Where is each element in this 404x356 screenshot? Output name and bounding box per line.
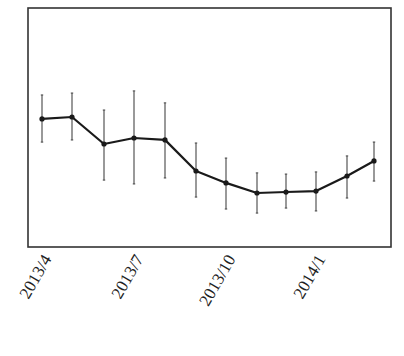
data-point — [162, 137, 167, 142]
data-point — [39, 116, 44, 121]
series-line — [42, 117, 374, 193]
data-point — [101, 141, 106, 146]
line-chart: 2013/42013/72013/102014/1 — [0, 0, 404, 356]
data-point — [193, 168, 198, 173]
x-tick-label: 2014/1 — [289, 252, 329, 302]
data-point — [254, 190, 259, 195]
data-point — [283, 189, 288, 194]
data-point — [223, 180, 228, 185]
error-bars — [41, 91, 375, 213]
data-point — [313, 188, 318, 193]
data-point — [344, 173, 349, 178]
x-tick-label: 2013/7 — [107, 251, 147, 302]
x-tick-label: 2013/10 — [195, 252, 239, 310]
data-markers — [39, 114, 376, 195]
x-tick-label: 2013/4 — [15, 251, 55, 302]
data-point — [131, 135, 136, 140]
data-point — [371, 158, 376, 163]
data-point — [69, 114, 74, 119]
x-axis-tick-labels: 2013/42013/72013/102014/1 — [15, 251, 329, 309]
plot-frame — [28, 8, 391, 247]
